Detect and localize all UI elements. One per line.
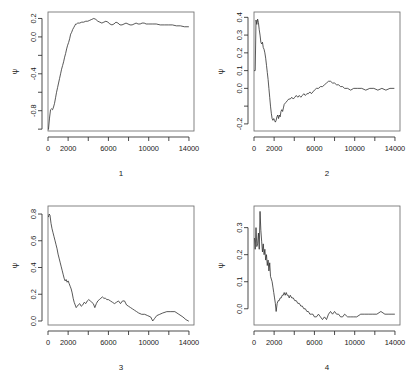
panel-4: 02000600010000140000.00.10.20.3ψ4 (206, 194, 413, 388)
x-axis: 0200060001000014000 (46, 137, 199, 153)
x-tick-label: 14000 (385, 144, 406, 153)
x-tick-label: 14000 (179, 338, 200, 347)
y-axis-title: ψ (10, 69, 19, 74)
x-tick-label: 6000 (306, 338, 322, 347)
x-tick-label: 2000 (60, 144, 76, 153)
panel-4-svg: 02000600010000140000.00.10.20.3ψ4 (206, 194, 413, 388)
y-tick-label: 0.4 (30, 262, 39, 272)
x-axis: 0200060001000014000 (252, 331, 405, 347)
x-axis-title: 3 (119, 363, 124, 372)
x-axis-title: 2 (325, 169, 330, 178)
x-axis-title: 1 (119, 169, 124, 178)
y-axis: -0.20.00.10.20.30.4 (236, 12, 249, 130)
y-tick-label: 0.4 (236, 12, 245, 22)
y-tick-label: 0.1 (236, 277, 245, 287)
plot-frame (254, 12, 400, 131)
trace-line (255, 211, 395, 319)
panel-1: 0200060001000014000-0.8-0.40.00.2ψ1 (0, 0, 206, 194)
y-tick-label: 0.1 (236, 65, 245, 75)
x-tick-label: 6000 (100, 144, 116, 153)
x-tick-label: 10000 (344, 338, 365, 347)
x-tick-label: 0 (252, 144, 256, 153)
panel-3-svg: 02000600010000140000.00.20.40.60.8ψ3 (0, 194, 206, 388)
x-axis: 0200060001000014000 (46, 331, 199, 347)
x-tick-label: 6000 (306, 144, 322, 153)
x-tick-label: 0 (46, 338, 50, 347)
x-tick-label: 2000 (266, 144, 282, 153)
panel-2-svg: 0200060001000014000-0.20.00.10.20.30.4ψ2 (206, 0, 413, 194)
y-tick-label: 0.2 (30, 289, 39, 299)
plot-grid: 0200060001000014000-0.8-0.40.00.2ψ1 0200… (0, 0, 413, 388)
x-tick-label: 0 (46, 144, 50, 153)
y-tick-label: 0.0 (236, 83, 245, 93)
x-tick-label: 10000 (344, 144, 365, 153)
x-axis: 0200060001000014000 (252, 137, 405, 153)
x-tick-label: 2000 (60, 338, 76, 347)
x-axis-title: 4 (325, 363, 330, 372)
panel-2: 0200060001000014000-0.20.00.10.20.30.4ψ2 (206, 0, 413, 194)
x-tick-label: 14000 (179, 144, 200, 153)
trace-line (49, 214, 189, 321)
trace-line (255, 19, 394, 122)
y-tick-label: 0.0 (236, 304, 245, 314)
y-axis-title: ψ (216, 263, 225, 268)
y-tick-label: 0.8 (30, 209, 39, 219)
panel-1-svg: 0200060001000014000-0.8-0.40.00.2ψ1 (0, 0, 206, 194)
y-tick-label: 0.2 (30, 13, 39, 23)
x-tick-label: 10000 (138, 338, 159, 347)
y-axis: 0.00.20.40.60.8 (30, 209, 43, 326)
y-tick-label: 0.3 (236, 30, 245, 40)
x-tick-label: 6000 (100, 338, 116, 347)
plot-frame (48, 206, 194, 325)
trace-line (49, 18, 189, 129)
panel-3: 02000600010000140000.00.20.40.60.8ψ3 (0, 194, 206, 388)
y-tick-label: 0.3 (236, 222, 245, 232)
y-tick-label: 0.6 (30, 236, 39, 246)
y-tick-label: -0.2 (236, 118, 245, 131)
x-tick-label: 10000 (138, 144, 159, 153)
y-axis-title: ψ (216, 69, 225, 74)
y-tick-label: 0.2 (236, 250, 245, 260)
y-tick-label: 0.2 (236, 48, 245, 58)
x-tick-label: 0 (252, 338, 256, 347)
y-tick-label: -0.4 (30, 67, 39, 80)
y-axis-title: ψ (10, 263, 19, 268)
y-axis: 0.00.10.20.3 (236, 222, 249, 313)
y-tick-label: 0.0 (30, 32, 39, 42)
x-tick-label: 2000 (266, 338, 282, 347)
y-tick-label: 0.0 (30, 316, 39, 326)
y-tick-label: -0.8 (30, 104, 39, 117)
y-axis: -0.8-0.40.00.2 (30, 13, 43, 129)
x-tick-label: 14000 (385, 338, 406, 347)
plot-frame (48, 12, 194, 131)
